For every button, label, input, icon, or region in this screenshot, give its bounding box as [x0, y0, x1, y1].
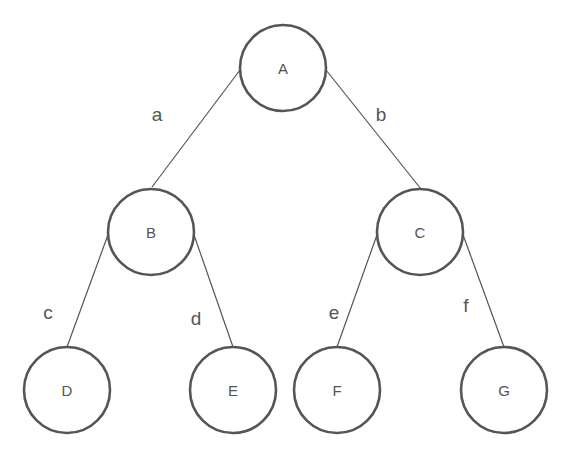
node-f: F [294, 347, 380, 433]
edge-a-c [326, 70, 421, 189]
edge-label-e: e [329, 302, 340, 323]
node-g: G [461, 347, 547, 433]
edge-b-e [193, 232, 233, 347]
edge-b-d [67, 232, 109, 347]
node-d: D [24, 347, 110, 433]
node-label: E [228, 382, 238, 399]
node-label: G [498, 382, 510, 399]
edge-label-b: b [376, 104, 387, 125]
edge-label-c: c [43, 302, 53, 323]
tree-diagram: ABCDEFG abcdef [0, 0, 574, 465]
node-label: C [415, 224, 426, 241]
nodes-group: ABCDEFG [24, 25, 547, 433]
node-label: B [146, 224, 156, 241]
node-label: F [332, 382, 341, 399]
node-b: B [108, 189, 194, 275]
node-label: D [62, 382, 73, 399]
edge-a-b [152, 70, 240, 187]
edge-label-d: d [191, 308, 202, 329]
edge-label-f: f [463, 295, 469, 316]
edge-label-a: a [152, 104, 163, 125]
node-c: C [377, 189, 463, 275]
edge-c-g [462, 232, 504, 347]
node-label: A [278, 60, 288, 77]
node-e: E [190, 347, 276, 433]
node-a: A [240, 25, 326, 111]
edge-c-f [337, 232, 378, 347]
